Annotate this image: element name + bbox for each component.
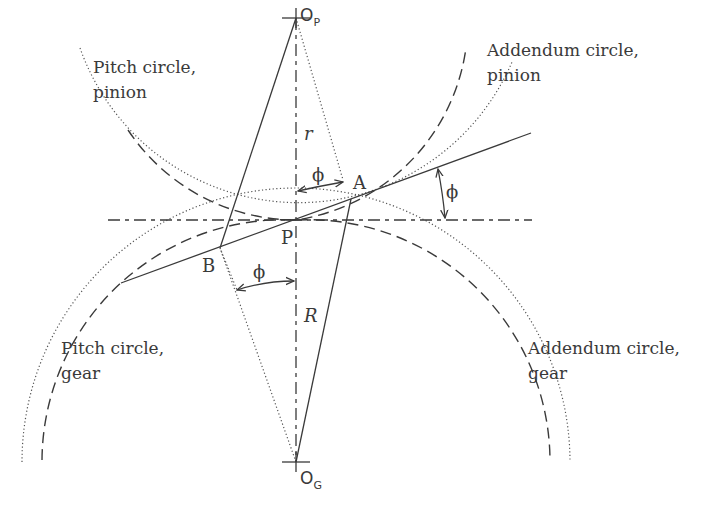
phi-label-right: ϕ <box>446 181 458 202</box>
line-of-action <box>121 133 531 283</box>
gear-mesh-diagram: OP OG P A B r R ϕ ϕ ϕ Pitch circle, pini… <box>0 0 717 509</box>
point-b-label: B <box>202 255 215 276</box>
addendum-circle-pinion-label: Addendum circle, pinion <box>486 40 644 85</box>
phi-arc-right <box>438 169 445 218</box>
pinion-radius-label: r <box>304 123 314 144</box>
line-og-to-a <box>296 199 351 462</box>
phi-arc-bottom <box>237 281 294 290</box>
gear-center-label: OG <box>300 468 322 492</box>
pinion-center-label: OP <box>300 5 320 29</box>
gear-radius-label: R <box>303 305 318 326</box>
pitch-point-label: P <box>281 227 293 248</box>
pitch-circle-gear-label: Pitch circle, gear <box>61 338 170 383</box>
dotted-op-ray <box>296 18 343 180</box>
phi-label-top: ϕ <box>312 164 324 185</box>
pitch-circle-pinion-label: Pitch circle, pinion <box>93 57 202 102</box>
phi-label-bottom: ϕ <box>253 261 265 282</box>
point-a-label: A <box>352 172 367 193</box>
line-op-to-b <box>220 18 296 248</box>
